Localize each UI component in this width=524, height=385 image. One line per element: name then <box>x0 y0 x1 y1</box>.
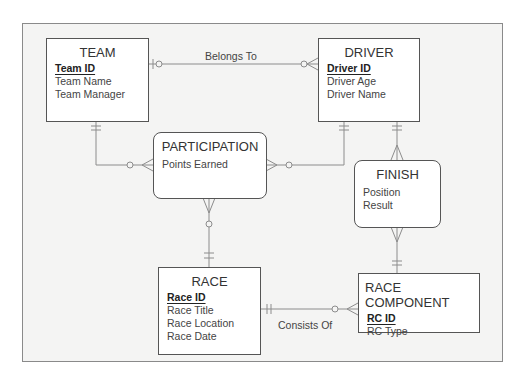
attribute: Race Location <box>167 317 260 330</box>
entity-finish[interactable]: FINISH Position Result <box>354 160 441 228</box>
attribute: Team Name <box>55 75 148 88</box>
entity-title: PARTICIPATION <box>154 139 266 154</box>
entity-driver[interactable]: DRIVER Driver ID Driver Age Driver Name <box>318 38 420 122</box>
attribute: Position <box>363 186 440 199</box>
attribute: Driver Age <box>327 75 419 88</box>
consists-of-label: Consists Of <box>278 319 332 331</box>
entity-race[interactable]: RACE Race ID Race Title Race Location Ra… <box>158 267 261 355</box>
race-component-finish-line <box>391 227 403 273</box>
primary-key: Team ID <box>55 62 148 75</box>
attribute: Team Manager <box>55 88 148 101</box>
attribute: RC Type <box>367 325 479 338</box>
driver-participation-line <box>266 121 349 171</box>
consists-of-line <box>260 303 358 315</box>
driver-finish-line <box>391 121 403 160</box>
entity-title: RACE COMPONENT <box>359 280 479 310</box>
team-participation-line <box>91 121 153 171</box>
primary-key: Driver ID <box>327 62 419 75</box>
belongs-to-label: Belongs To <box>205 50 257 62</box>
race-participation-line <box>203 198 215 267</box>
attribute: Points Earned <box>162 158 266 171</box>
entity-title: TEAM <box>47 45 148 60</box>
entity-title: FINISH <box>355 167 440 182</box>
attribute: Race Title <box>167 304 260 317</box>
entity-participation[interactable]: PARTICIPATION Points Earned <box>153 132 267 199</box>
entity-team[interactable]: TEAM Team ID Team Name Team Manager <box>46 38 149 122</box>
entity-race-component[interactable]: RACE COMPONENT RC ID RC Type <box>358 273 480 333</box>
attribute: Result <box>363 199 440 212</box>
attribute: Driver Name <box>327 88 419 101</box>
entity-title: RACE <box>159 274 260 289</box>
attribute: Race Date <box>167 330 260 343</box>
primary-key: RC ID <box>367 312 479 325</box>
primary-key: Race ID <box>167 291 260 304</box>
entity-title: DRIVER <box>319 45 419 60</box>
